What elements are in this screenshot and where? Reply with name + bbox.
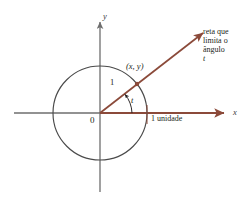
angle-label: t <box>131 96 133 106</box>
radius-label: 1 <box>110 78 114 88</box>
y-axis-label: y <box>103 12 107 22</box>
terminal-ray <box>100 33 203 113</box>
point-marker <box>135 82 139 86</box>
ray-caption-line3: ângulo t <box>203 46 229 64</box>
x-axis-label: x <box>233 108 237 118</box>
ray-caption-line3-prefix: ângulo <box>203 46 229 55</box>
point-label: (x, y) <box>126 62 143 72</box>
trigonometry-figure: y x 0 1 t (x, y) 1 unidade reta que limi… <box>0 0 249 199</box>
ray-caption-line3-var: t <box>203 55 229 64</box>
origin-label: 0 <box>90 115 95 125</box>
unit-segment-label: 1 unidade <box>151 115 182 124</box>
ray-caption: reta que limita o ângulo t <box>203 28 229 64</box>
